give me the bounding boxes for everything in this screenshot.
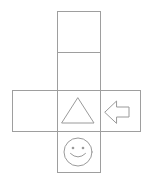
smiley-right-eye — [82, 147, 85, 150]
face-upper-middle-fill — [57, 52, 100, 90]
face-top-fill — [57, 11, 100, 52]
face-center-fill — [57, 90, 100, 131]
cube-net-diagram — [0, 0, 150, 181]
net-faces — [12, 11, 140, 172]
smiley-left-eye — [72, 147, 75, 150]
cube-net-svg — [0, 0, 150, 181]
face-left-fill — [12, 90, 57, 131]
